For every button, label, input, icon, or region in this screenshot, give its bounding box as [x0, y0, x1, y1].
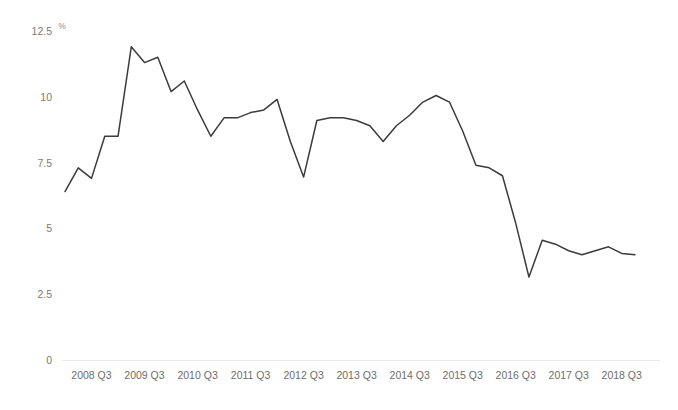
x-axis-tick-label: 2008 Q3	[71, 369, 111, 381]
chart-canvas: 02.557.51012.5 2008 Q32009 Q32010 Q32011…	[0, 0, 678, 410]
x-axis-tick-label: 2011 Q3	[231, 369, 271, 381]
x-axis-tick-label: 2012 Q3	[283, 369, 323, 381]
y-axis-tick-label: 7.5	[37, 157, 52, 169]
y-axis-tick-label: 0	[46, 354, 52, 366]
x-axis-tick-label: 2009 Q3	[124, 369, 164, 381]
y-axis-tick-label: 10	[40, 91, 52, 103]
x-axis-tick-label: 2010 Q3	[177, 369, 217, 381]
x-axis-tick-label: 2013 Q3	[336, 369, 376, 381]
x-axis-tick-label: 2014 Q3	[390, 369, 430, 381]
y-axis-unit-label: %	[58, 21, 66, 31]
y-axis-tick-label: 5	[46, 222, 52, 234]
x-axis-tick-label: 2018 Q3	[602, 369, 642, 381]
y-axis-tick-labels: 02.557.51012.5	[32, 25, 53, 366]
x-axis-tick-label: 2015 Q3	[443, 369, 483, 381]
x-axis-tick-label: 2017 Q3	[549, 369, 589, 381]
line-chart: 02.557.51012.5 2008 Q32009 Q32010 Q32011…	[0, 0, 678, 410]
y-axis-tick-label: 12.5	[32, 25, 53, 37]
series-line-rate	[65, 47, 635, 277]
x-axis-tick-label: 2016 Q3	[496, 369, 536, 381]
x-axis-tick-labels: 2008 Q32009 Q32010 Q32011 Q32012 Q32013 …	[71, 369, 642, 381]
y-axis-tick-label: 2.5	[37, 288, 52, 300]
